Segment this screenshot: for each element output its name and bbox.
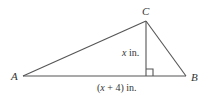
triangle-diagram: A B C x in. (x + 4) in. — [0, 0, 206, 97]
vertex-label-b: B — [191, 71, 198, 83]
altitude-unit: in. — [126, 47, 139, 58]
vertex-label-a: A — [10, 70, 18, 82]
base-label: (x + 4) in. — [97, 82, 137, 94]
right-angle-marker — [146, 69, 153, 76]
base-label-rest: + 4) in. — [105, 82, 137, 94]
altitude-label: x in. — [121, 47, 139, 58]
side-cb — [146, 21, 186, 76]
vertex-label-c: C — [142, 5, 150, 17]
triangle-abc — [23, 21, 186, 76]
